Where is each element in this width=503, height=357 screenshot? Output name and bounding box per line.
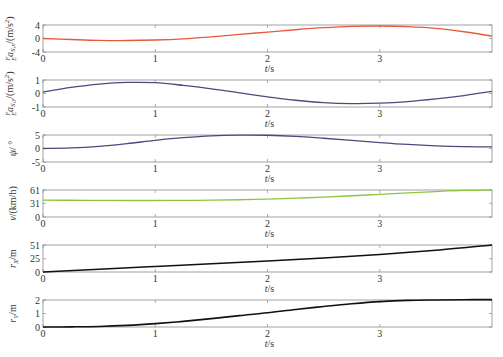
x-tick-label: 1 [153,53,158,64]
y-tick-label: 2 [35,295,40,306]
x-tick-label: 0 [41,108,46,119]
x-tick-label: 0 [41,53,46,64]
y-tick-label: 5 [35,130,40,141]
data-series [43,300,492,327]
y-axis-label: rX/m [7,249,20,268]
x-tick-label: 3 [377,108,382,119]
x-axis-label: t/s [265,118,275,129]
data-series [43,82,492,103]
x-axis-label: t/s [265,338,275,349]
data-series [43,245,492,272]
y-axis-label: ψ/ ° [7,141,18,157]
y-tick-label: 31 [30,198,40,209]
data-series [43,26,492,41]
x-axis-label: t/s [265,63,275,74]
subplot-3: 012350-5t/sψ/ ° [7,130,492,185]
plot-frame [43,25,492,52]
x-tick-label: 0 [41,218,46,229]
y-tick-label: 0 [35,267,40,278]
x-tick-label: 1 [153,163,158,174]
y-axis-label: FEaS,x/(m/s2) [3,16,17,61]
plot-frame [43,190,492,217]
subplot-4: 012361310t/sv/(km/h) [7,185,492,240]
y-tick-label: -1 [32,102,40,113]
x-axis-label: t/s [265,283,275,294]
figure: 012340-4t/sFEaS,x/(m/s2)012310-1t/sFEaS,… [0,0,503,357]
y-axis-label: v/(km/h) [7,186,19,220]
subplot-1: 012340-4t/sFEaS,x/(m/s2) [3,16,492,74]
x-tick-label: 3 [377,163,382,174]
x-tick-label: 1 [153,328,158,339]
y-tick-label: 0 [35,212,40,223]
y-tick-label: 25 [30,253,40,264]
subplot-6: 0123210t/srY/m [7,295,492,350]
y-tick-label: -5 [32,157,40,168]
x-tick-label: 3 [377,53,382,64]
y-tick-label: 0 [35,143,40,154]
y-axis-label: FEaS,y/(m/s2) [3,71,17,116]
x-axis-label: t/s [265,228,275,239]
subplot-5: 012351250t/srX/m [7,240,492,295]
x-tick-label: 1 [153,108,158,119]
y-tick-label: 51 [30,240,40,251]
x-tick-label: 0 [41,273,46,284]
y-tick-label: 1 [35,308,40,319]
plot-frame [43,135,492,162]
x-tick-label: 3 [377,328,382,339]
x-tick-label: 1 [153,218,158,229]
y-axis-label: rY/m [7,304,20,323]
x-tick-label: 3 [377,218,382,229]
y-tick-label: 0 [35,322,40,333]
y-tick-label: 1 [35,75,40,86]
x-tick-label: 0 [41,163,46,174]
x-tick-label: 3 [377,273,382,284]
y-tick-label: 4 [35,20,40,31]
x-tick-label: 0 [41,328,46,339]
plot-frame [43,80,492,107]
x-tick-label: 1 [153,273,158,284]
y-tick-label: 61 [30,185,40,196]
y-tick-label: -4 [32,47,40,58]
x-axis-label: t/s [265,173,275,184]
y-tick-label: 0 [35,88,40,99]
subplot-2: 012310-1t/sFEaS,y/(m/s2) [3,71,492,129]
y-tick-label: 0 [35,33,40,44]
